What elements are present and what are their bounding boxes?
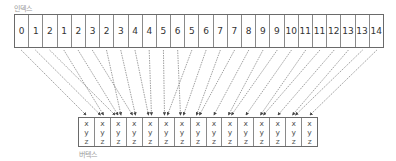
vertex-cell: xyz bbox=[270, 118, 286, 146]
vertex-component-y: y bbox=[116, 128, 120, 137]
vertex-cell: xyz bbox=[111, 118, 127, 146]
index-arrow bbox=[21, 50, 86, 115]
vertex-buffer-label: 버텍스 bbox=[79, 149, 97, 159]
index-arrow bbox=[197, 50, 221, 115]
index-arrow bbox=[135, 50, 149, 115]
vertex-component-z: z bbox=[276, 137, 280, 146]
vertex-component-y: y bbox=[212, 128, 216, 137]
index-arrow bbox=[35, 50, 100, 115]
vertex-component-z: z bbox=[180, 137, 184, 146]
index-arrow bbox=[278, 50, 334, 115]
index-arrow bbox=[178, 50, 181, 115]
vertex-component-y: y bbox=[260, 128, 264, 137]
vertex-component-x: x bbox=[228, 119, 232, 128]
vertex-cell: xyz bbox=[254, 118, 270, 146]
vertex-cell: xyz bbox=[286, 118, 302, 146]
vertex-component-x: x bbox=[164, 119, 168, 128]
vertex-component-x: x bbox=[260, 119, 264, 128]
vertex-component-y: y bbox=[196, 128, 200, 137]
vertex-component-z: z bbox=[196, 137, 200, 146]
vertex-component-z: z bbox=[260, 137, 264, 146]
vertex-cell: xyz bbox=[175, 118, 191, 146]
vertex-component-z: z bbox=[116, 137, 120, 146]
vertex-component-y: y bbox=[291, 128, 295, 137]
vertex-component-x: x bbox=[148, 119, 152, 128]
vertex-component-z: z bbox=[308, 137, 312, 146]
index-arrow bbox=[168, 50, 192, 115]
vertex-component-y: y bbox=[100, 128, 104, 137]
vertex-component-x: x bbox=[275, 119, 279, 128]
vertex-component-z: z bbox=[148, 137, 152, 146]
index-arrow bbox=[214, 50, 249, 115]
index-arrow bbox=[50, 50, 115, 115]
vertex-component-z: z bbox=[100, 137, 104, 146]
vertex-component-z: z bbox=[244, 137, 248, 146]
index-arrow bbox=[163, 50, 164, 115]
vertex-buffer: xyzxyzxyzxyzxyzxyzxyzxyzxyzxyzxyzxyzxyzx… bbox=[78, 117, 318, 147]
index-arrow bbox=[264, 50, 320, 115]
vertex-component-z: z bbox=[292, 137, 296, 146]
index-arrow bbox=[246, 50, 292, 115]
vertex-component-y: y bbox=[244, 128, 248, 137]
vertex-component-x: x bbox=[180, 119, 184, 128]
vertex-component-x: x bbox=[84, 119, 88, 128]
index-arrow bbox=[261, 50, 306, 115]
vertex-cell: xyz bbox=[238, 118, 254, 146]
vertex-component-y: y bbox=[132, 128, 136, 137]
vertex-component-y: y bbox=[148, 128, 152, 137]
vertex-component-y: y bbox=[275, 128, 279, 137]
vertex-component-z: z bbox=[85, 137, 89, 146]
vertex-component-y: y bbox=[228, 128, 232, 137]
vertex-component-y: y bbox=[84, 128, 88, 137]
vertex-component-x: x bbox=[291, 119, 295, 128]
vertex-cell: xyz bbox=[143, 118, 159, 146]
index-arrow bbox=[232, 50, 278, 115]
vertex-cell: xyz bbox=[222, 118, 238, 146]
vertex-component-x: x bbox=[307, 119, 311, 128]
vertex-component-x: x bbox=[244, 119, 248, 128]
index-arrow bbox=[121, 50, 136, 115]
index-arrow bbox=[184, 50, 207, 115]
vertex-component-x: x bbox=[196, 119, 200, 128]
index-arrow bbox=[229, 50, 264, 115]
vertex-component-y: y bbox=[180, 128, 184, 137]
vertex-cell: xyz bbox=[79, 118, 95, 146]
vertex-component-z: z bbox=[164, 137, 168, 146]
index-arrow bbox=[107, 50, 122, 115]
vertex-cell: xyz bbox=[159, 118, 175, 146]
index-arrow bbox=[149, 50, 151, 115]
vertex-cell: xyz bbox=[302, 118, 317, 146]
vertex-component-x: x bbox=[132, 119, 136, 128]
vertex-component-z: z bbox=[212, 137, 216, 146]
vertex-cell: xyz bbox=[191, 118, 207, 146]
vertex-cell: xyz bbox=[127, 118, 143, 146]
vertex-component-y: y bbox=[164, 128, 168, 137]
index-arrow bbox=[296, 50, 363, 115]
vertex-cell: xyz bbox=[95, 118, 111, 146]
vertex-component-z: z bbox=[228, 137, 232, 146]
vertex-cell: xyz bbox=[207, 118, 223, 146]
vertex-component-z: z bbox=[132, 137, 136, 146]
vertex-component-x: x bbox=[100, 119, 104, 128]
vertex-component-x: x bbox=[212, 119, 216, 128]
vertex-component-y: y bbox=[307, 128, 311, 137]
vertex-component-x: x bbox=[116, 119, 120, 128]
